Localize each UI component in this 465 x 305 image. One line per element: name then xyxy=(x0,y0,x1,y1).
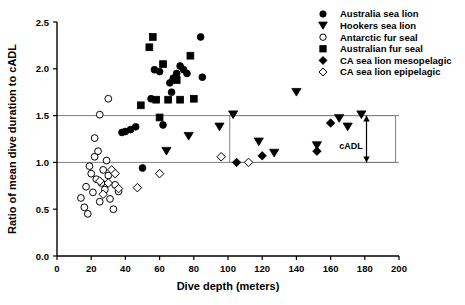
x-tick-label-60: 60 xyxy=(154,263,165,274)
data-point xyxy=(197,34,204,41)
chart-canvas: cADL0204060801001201401601802000.00.51.0… xyxy=(0,0,465,305)
data-point xyxy=(162,147,171,155)
legend-marker-circle xyxy=(320,34,326,40)
data-point xyxy=(173,70,180,77)
data-point xyxy=(160,61,167,68)
legend-label: Australia sea lion xyxy=(340,8,419,19)
data-point xyxy=(217,153,226,162)
legend-marker-triangle-down xyxy=(319,22,328,29)
data-point xyxy=(96,111,103,118)
data-point xyxy=(78,195,85,202)
y-tick-label-1: 1.0 xyxy=(36,157,49,168)
data-point xyxy=(254,138,263,146)
x-tick-label-200: 200 xyxy=(391,263,407,274)
data-point xyxy=(156,114,163,121)
data-point xyxy=(357,111,366,119)
legend-marker-diamond xyxy=(319,68,327,76)
data-point xyxy=(160,122,167,129)
legend-marker-diamond xyxy=(319,56,327,64)
data-point xyxy=(343,123,352,131)
data-point xyxy=(153,96,160,103)
series-antarctic-fur-seal xyxy=(78,95,122,217)
data-point xyxy=(173,77,180,84)
data-point xyxy=(105,95,112,102)
data-point xyxy=(133,183,142,192)
data-point xyxy=(103,157,110,164)
cadl-annotation-label: cADL xyxy=(339,141,363,151)
data-point xyxy=(177,96,184,103)
data-point xyxy=(168,89,175,96)
data-point xyxy=(326,119,335,128)
scatter-plot-figure: cADL0204060801001201401601802000.00.51.0… xyxy=(0,0,465,305)
data-point xyxy=(199,74,206,81)
y-tick-label-0-5: 0.5 xyxy=(36,204,50,215)
data-point xyxy=(132,123,139,130)
data-point xyxy=(155,169,164,178)
x-tick-label-40: 40 xyxy=(120,263,131,274)
data-point xyxy=(187,52,194,59)
y-tick-label-1-5: 1.5 xyxy=(36,110,50,121)
legend-label: CA sea lion mesopelagic xyxy=(340,55,452,66)
data-point xyxy=(270,149,279,157)
x-tick-label-160: 160 xyxy=(323,263,339,274)
data-point xyxy=(100,166,107,173)
data-point xyxy=(232,158,241,167)
data-point xyxy=(110,206,117,213)
legend-marker-circle xyxy=(320,11,326,17)
y-tick-label-2: 2.0 xyxy=(36,63,49,74)
data-point xyxy=(137,102,144,109)
data-point xyxy=(190,95,197,102)
data-point xyxy=(215,123,224,131)
legend-label: Hookers sea lion xyxy=(340,20,416,31)
data-point xyxy=(184,132,193,140)
x-tick-label-140: 140 xyxy=(288,263,304,274)
cadl-arrow-head-up xyxy=(363,116,369,122)
data-point xyxy=(95,148,102,155)
cadl-arrow-head-down xyxy=(363,156,369,162)
legend-label: Australian fur seal xyxy=(340,43,423,54)
data-point xyxy=(107,196,114,203)
data-point xyxy=(90,189,97,196)
data-point xyxy=(149,34,156,41)
data-point xyxy=(258,152,267,161)
data-point xyxy=(139,165,146,172)
data-point xyxy=(335,115,344,123)
x-tick-label-20: 20 xyxy=(86,263,97,274)
data-point xyxy=(91,135,98,142)
data-point xyxy=(96,198,103,205)
x-tick-label-80: 80 xyxy=(189,263,200,274)
data-point xyxy=(165,96,172,103)
data-point xyxy=(81,204,88,211)
series-australian-fur-seal xyxy=(137,34,197,121)
y-tick-label-2-5: 2.5 xyxy=(36,17,50,28)
data-point xyxy=(292,88,301,96)
legend-label: CA sea lion epipelagic xyxy=(340,66,440,77)
series-ca-sea-lion-epipelagic xyxy=(96,153,253,199)
data-point xyxy=(84,210,91,217)
legend-marker-square xyxy=(320,46,326,52)
x-tick-label-0: 0 xyxy=(54,263,59,274)
data-point xyxy=(88,170,95,177)
data-point xyxy=(184,70,191,77)
data-point xyxy=(83,183,90,190)
x-tick-label-180: 180 xyxy=(357,263,373,274)
legend-label: Antarctic fur seal xyxy=(340,32,418,43)
y-axis-title: Ratio of mean dive duration to cADL xyxy=(6,44,18,234)
data-point xyxy=(156,68,163,75)
legend: Australia sea lionHookers sea lionAntarc… xyxy=(319,8,452,77)
data-point xyxy=(244,158,253,167)
data-point xyxy=(313,147,322,156)
x-axis-title: Dive depth (meters) xyxy=(177,280,280,292)
data-point xyxy=(146,44,153,51)
x-tick-label-120: 120 xyxy=(254,263,270,274)
x-tick-label-100: 100 xyxy=(220,263,236,274)
y-tick-label-0: 0.0 xyxy=(36,251,49,262)
data-point xyxy=(86,163,93,170)
